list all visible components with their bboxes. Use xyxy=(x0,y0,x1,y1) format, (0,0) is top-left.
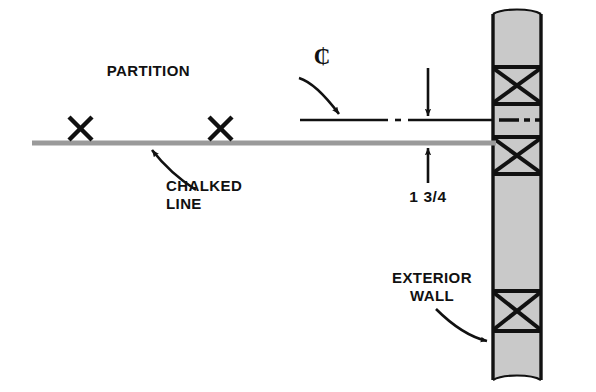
exterior-wall-label-line2: WALL xyxy=(410,287,454,304)
chalked-line-label-line1: CHALKED xyxy=(166,177,242,194)
layout-x-mark-1 xyxy=(69,117,92,140)
exterior-wall xyxy=(491,10,543,381)
diagram-canvas: PARTITION ₵ CHALKED LINE 1 3/4 EXTERIOR … xyxy=(0,0,596,392)
wall-bottom-break-line xyxy=(493,376,541,381)
layout-x-mark-2 xyxy=(209,117,232,140)
dimension-label: 1 3/4 xyxy=(409,188,446,205)
exterior-wall-label-line1: EXTERIOR xyxy=(392,269,472,286)
partition-layout-diagram: PARTITION ₵ CHALKED LINE 1 3/4 EXTERIOR … xyxy=(0,0,596,392)
exterior-wall-leader-arrow xyxy=(436,309,487,341)
centerline-symbol: ₵ xyxy=(314,44,331,69)
partition-leader-arrow xyxy=(299,78,339,114)
partition-label: PARTITION xyxy=(107,62,190,79)
chalked-line-label-line2: LINE xyxy=(166,195,202,212)
